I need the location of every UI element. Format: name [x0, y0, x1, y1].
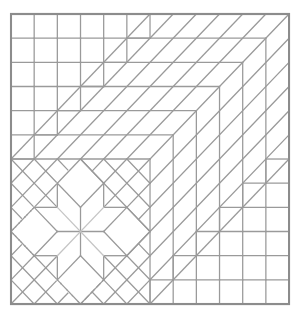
quilt-diagram — [0, 0, 297, 314]
lattice-line — [138, 207, 150, 219]
lattice-line — [57, 159, 67, 170]
star-inner-line — [81, 183, 104, 207]
lattice-line — [11, 159, 56, 206]
star-inner-line — [34, 232, 57, 256]
star-inner-line — [57, 183, 80, 207]
star-inner-line — [104, 207, 127, 231]
lattice-line — [34, 281, 56, 304]
lattice-line — [33, 254, 56, 278]
lattice-line — [11, 183, 33, 206]
lattice-line — [92, 159, 104, 171]
star-inner-line — [57, 256, 80, 280]
lattice-line — [11, 257, 56, 304]
star-inner-line — [104, 232, 127, 256]
lattice-line — [105, 159, 150, 206]
star-inner-line — [34, 207, 57, 231]
lattice-line — [11, 245, 21, 256]
lattice-line — [11, 207, 21, 218]
star-inner-line — [81, 256, 104, 280]
lattice-line — [138, 244, 150, 256]
lattice-line — [92, 292, 104, 304]
lattice-line — [57, 293, 67, 304]
lattice-line — [34, 159, 56, 182]
